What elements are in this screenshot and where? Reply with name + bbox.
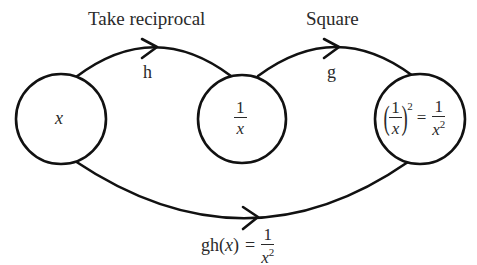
rhs-fraction: 1 x2 xyxy=(432,98,445,138)
lhs-power: 2 xyxy=(407,100,413,112)
rhs-denominator: x2 xyxy=(432,117,445,138)
node-square-expression: ( 1 x ) 2 = 1 x2 xyxy=(381,98,445,138)
composite-function-label: gh( x ) = 1 x2 xyxy=(201,226,274,265)
fraction-denominator: x xyxy=(236,118,244,137)
equals-sign: = xyxy=(417,108,427,128)
node-x-label: x xyxy=(55,109,63,127)
right-paren: ) xyxy=(401,101,407,135)
edge-gh-arc xyxy=(75,161,408,218)
edge-g-title: Square xyxy=(306,9,359,28)
edge-h-title: Take reciprocal xyxy=(88,9,205,28)
lhs-denominator: x xyxy=(392,118,400,137)
composite-numerator: 1 xyxy=(261,226,274,244)
lhs-fraction: 1 x xyxy=(389,99,402,137)
edge-g-function-label: g xyxy=(327,63,336,81)
composite-close-paren: ) xyxy=(233,235,239,256)
composite-variable: x xyxy=(225,235,233,256)
left-paren: ( xyxy=(384,101,390,135)
rhs-numerator: 1 xyxy=(433,98,446,116)
edge-h-arc xyxy=(76,47,231,77)
node-reciprocal-fraction: 1 x xyxy=(234,99,247,137)
composite-fraction: 1 x2 xyxy=(261,226,274,265)
composite-denominator: x2 xyxy=(261,245,274,265)
composite-lhs: gh( xyxy=(201,235,225,256)
composite-equals: = xyxy=(245,235,255,256)
edge-h-function-label: h xyxy=(143,63,152,81)
lhs-numerator: 1 xyxy=(389,99,402,117)
fraction-numerator: 1 xyxy=(234,99,247,117)
